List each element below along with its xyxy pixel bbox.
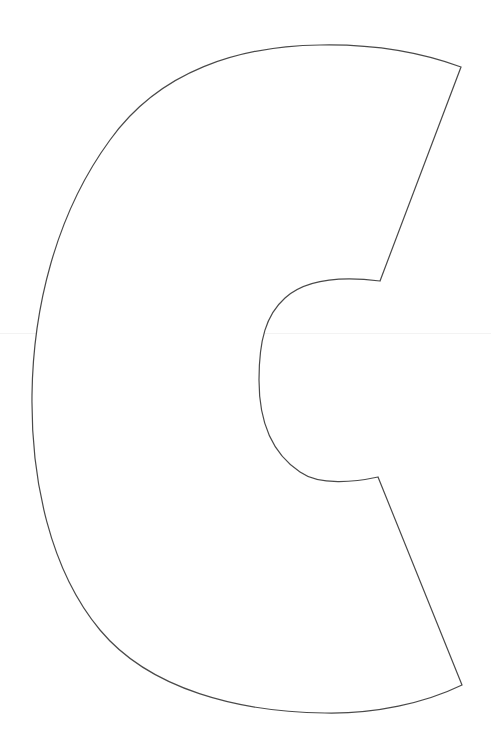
letter-c-path	[32, 45, 462, 713]
letter-c-outline-icon	[0, 0, 491, 755]
drawing-canvas: C	[0, 0, 491, 755]
